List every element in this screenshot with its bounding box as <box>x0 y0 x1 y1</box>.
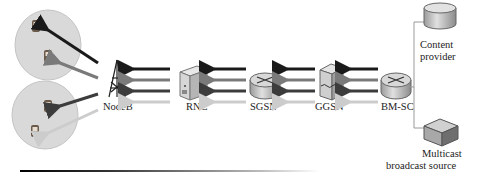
mobile-phone-icon <box>44 50 52 62</box>
mobile-phone-icon <box>31 125 39 137</box>
mobile-phone-icon <box>32 20 40 32</box>
bmsc-label: BM-SC <box>381 101 414 112</box>
multicast-label-1: Multicast <box>422 148 462 159</box>
mbms-architecture-diagram: NodeB RNC SGSN GGSN <box>0 0 479 181</box>
content-provider-label-1: Content <box>420 39 453 50</box>
router-icon <box>250 73 280 99</box>
mobile-phone-icon <box>44 100 52 112</box>
arrows-sgsn-to-rnc <box>214 69 246 102</box>
arrows-ggsn-to-sgsn <box>287 69 315 102</box>
source-bracket <box>410 22 426 128</box>
cell-2 <box>12 81 78 149</box>
database-cylinder-icon <box>424 3 456 29</box>
ggsn-label: GGSN <box>315 101 344 112</box>
sgsn-label: SGSN <box>250 101 277 112</box>
multicast-label-2: broadcast source <box>386 160 457 171</box>
box-server-icon <box>424 119 458 146</box>
content-provider-label-2: provider <box>420 51 456 62</box>
arrows-rnc-to-nodeb <box>133 69 170 102</box>
nodeb-label: NodeB <box>103 101 133 112</box>
cell-tower-icon <box>109 60 125 97</box>
arrows-bmsc-to-ggsn <box>350 69 378 102</box>
router-icon <box>381 73 411 99</box>
gateway-server-icon <box>320 64 343 100</box>
bottom-rule <box>20 170 320 172</box>
rnc-label: RNC <box>186 101 208 112</box>
server-icon <box>180 66 207 100</box>
